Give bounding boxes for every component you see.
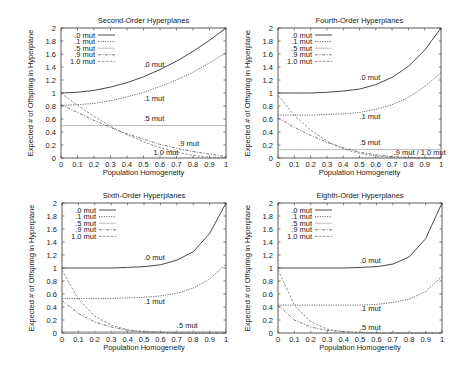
y-tick-label: 0	[269, 154, 273, 163]
x-tick-label: 0.8	[188, 335, 198, 344]
x-tick-label: 0.8	[188, 160, 198, 169]
eighth-order-chart: Eighth-Order Hyperplanes00.20.40.60.811.…	[243, 191, 444, 352]
curve-annotation: 1.0 mut	[153, 148, 179, 157]
y-tick-label: 1.2	[263, 76, 273, 85]
legend: .0 mut.1 mut.5 mut.9 mut1.0 mut	[287, 206, 332, 241]
x-axis-label: Population Homogeneity	[319, 168, 401, 177]
y-tick-label: 1	[269, 89, 273, 98]
y-axis-label: Expected # of Offspring in Hyperplane	[27, 205, 36, 332]
legend-label: 1.0 mut	[70, 57, 96, 66]
x-tick-label: 0.9	[420, 335, 430, 344]
y-axis-label: Expected # of Offspring in Hyperplane	[243, 30, 252, 157]
y-tick-label: 1.8	[47, 212, 57, 221]
y-tick-label: 2	[53, 199, 57, 208]
y-tick-label: 1.4	[47, 238, 57, 247]
y-tick-label: 1.2	[263, 251, 273, 260]
y-tick-label: 1.4	[263, 63, 273, 72]
y-axis-label: Expected # of Offspring in Hyperplane	[243, 205, 252, 332]
legend-label: 1.0 mut	[287, 57, 313, 66]
y-tick-label: 0.2	[47, 316, 57, 325]
x-tick-label: 0	[60, 335, 64, 344]
y-tick-label: 1.8	[263, 37, 273, 46]
x-tick-label: 0.1	[73, 335, 83, 344]
x-tick-label: 0	[59, 160, 63, 169]
curve-annotation: .9 mut / 1.0 mut	[394, 148, 447, 157]
y-tick-label: 1.8	[263, 212, 273, 221]
y-tick-label: 1.6	[47, 225, 57, 234]
x-tick-label: 0.2	[90, 335, 100, 344]
curve-annotation: .5 mut	[360, 138, 382, 147]
x-tick-label: 0	[276, 335, 280, 344]
y-tick-label: 0.6	[263, 290, 273, 299]
legend-label: 1.0 mut	[287, 232, 313, 241]
chart-title: Fourth-Order Hyperplanes	[316, 16, 404, 25]
chart-title: Eighth-Order Hyperplanes	[316, 191, 403, 200]
fourth-order-chart: Fourth-Order Hyperplanes00.20.40.60.811.…	[243, 16, 447, 177]
chart-title: Sixth-Order Hyperplanes	[103, 191, 186, 200]
legend: .0 mut.1 mut.5 mut.9 mut1.0 mut	[70, 31, 115, 66]
y-tick-label: 1	[52, 89, 56, 98]
curve-annotation: .5 mut	[144, 114, 166, 123]
x-tick-label: 0.1	[289, 160, 299, 169]
y-tick-label: 0.4	[263, 303, 273, 312]
curve-annotation: .1 mut	[360, 304, 382, 313]
curve-annotation: .0 mut	[144, 253, 166, 262]
x-tick-label: 0.2	[306, 335, 316, 344]
figure-canvas: Second-Order Hyperplanes00.20.40.60.811.…	[0, 0, 466, 368]
y-tick-label: 1.6	[263, 50, 273, 59]
x-tick-label: 0.1	[72, 160, 82, 169]
curve-annotation: .0 mut	[144, 60, 166, 69]
y-tick-label: 0.2	[263, 141, 273, 150]
y-tick-label: 0.8	[263, 277, 273, 286]
y-tick-label: 0	[53, 329, 57, 338]
series-line	[61, 105, 226, 157]
y-tick-label: 1.2	[47, 251, 57, 260]
x-tick-label: 1	[440, 335, 444, 344]
x-axis-label: Population Homogeneity	[319, 343, 401, 352]
curve-annotation: .5 mut	[177, 321, 199, 330]
x-tick-label: 0.1	[289, 335, 299, 344]
y-tick-label: 1.8	[46, 37, 56, 46]
y-tick-label: 2	[269, 199, 273, 208]
x-tick-label: 0.9	[204, 160, 214, 169]
curve-annotation: .9 mut	[178, 139, 200, 148]
x-tick-label: 0.2	[305, 160, 315, 169]
y-tick-label: 0.2	[46, 141, 56, 150]
y-tick-label: 1.2	[46, 76, 56, 85]
y-tick-label: 2	[52, 24, 56, 33]
x-tick-label: 1	[224, 160, 228, 169]
y-tick-label: 1.4	[263, 238, 273, 247]
legend-label: 1.0 mut	[71, 232, 97, 241]
curve-annotation: .0 mut	[360, 73, 382, 82]
series-line	[62, 264, 226, 299]
x-axis-label: Population Homogeneity	[103, 343, 185, 352]
x-tick-label: 0.9	[204, 335, 214, 344]
sixth-order-chart: Sixth-Order Hyperplanes00.20.40.60.811.2…	[27, 191, 228, 352]
chart-title: Second-Order Hyperplanes	[98, 16, 190, 25]
y-tick-label: 0.4	[46, 128, 56, 137]
y-tick-label: 1.6	[263, 225, 273, 234]
y-axis-label: Expected # of Offspring in Hyperplane	[26, 30, 35, 157]
y-tick-label: 1	[269, 264, 273, 273]
legend: .0 mut.1 mut.5 mut.9 mut1.0 mut	[287, 31, 332, 66]
y-tick-label: 0.2	[263, 316, 273, 325]
x-tick-label: 1	[439, 160, 443, 169]
y-tick-label: 0.6	[263, 115, 273, 124]
series-line	[278, 276, 442, 305]
curve-annotation: .1 mut	[144, 297, 166, 306]
y-tick-label: 0.6	[46, 115, 56, 124]
x-tick-label: 0	[276, 160, 280, 169]
y-tick-label: 0.6	[47, 290, 57, 299]
curve-annotation: .1 mut	[144, 94, 166, 103]
y-tick-label: 0.8	[263, 102, 273, 111]
y-tick-label: 0.4	[47, 303, 57, 312]
y-tick-label: 1	[53, 264, 57, 273]
x-tick-label: 0.8	[403, 160, 413, 169]
x-tick-label: 0.2	[89, 160, 99, 169]
y-tick-label: 0	[269, 329, 273, 338]
x-tick-label: 0.8	[404, 335, 414, 344]
x-axis-label: Population Homogeneity	[103, 168, 185, 177]
y-tick-label: 0.4	[263, 128, 273, 137]
y-tick-label: 1.6	[46, 50, 56, 59]
y-tick-label: 0.8	[47, 277, 57, 286]
